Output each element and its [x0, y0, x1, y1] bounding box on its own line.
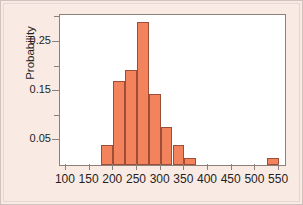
x-axis-tick — [160, 164, 161, 170]
y-axis-tick — [52, 139, 59, 140]
y-axis-tick — [52, 41, 59, 42]
x-axis-tick — [207, 164, 208, 170]
x-axis-tick — [278, 164, 279, 170]
histogram-bar — [125, 70, 137, 165]
histogram-bar — [149, 94, 161, 165]
plot-frame — [59, 14, 286, 166]
y-axis-tick — [52, 90, 59, 91]
x-axis-tick — [136, 164, 137, 170]
y-axis-minor-tick — [54, 66, 59, 67]
histogram-bar — [184, 158, 196, 165]
y-axis-minor-tick — [54, 115, 59, 116]
x-axis-tick-label: 550 — [258, 172, 298, 186]
y-axis-tick-label: 0.25 — [7, 34, 51, 46]
y-axis-tick-label: 0.15 — [7, 83, 51, 95]
histogram-bar — [101, 145, 113, 165]
histogram-bar — [161, 127, 173, 165]
histogram-bar — [113, 81, 125, 165]
x-axis-tick — [89, 164, 90, 170]
y-axis-tick-label: 0.05 — [7, 132, 51, 144]
x-axis-tick — [183, 164, 184, 170]
x-axis-tick — [65, 164, 66, 170]
x-axis-tick — [231, 164, 232, 170]
x-axis-tick — [254, 164, 255, 170]
x-axis-tick — [112, 164, 113, 170]
y-axis-minor-tick — [54, 16, 59, 17]
histogram-bar — [173, 145, 185, 165]
plot-area — [60, 15, 285, 165]
chart-figure: Probability 0.050.150.251001502002503003… — [0, 0, 303, 205]
histogram-bar — [137, 22, 149, 165]
